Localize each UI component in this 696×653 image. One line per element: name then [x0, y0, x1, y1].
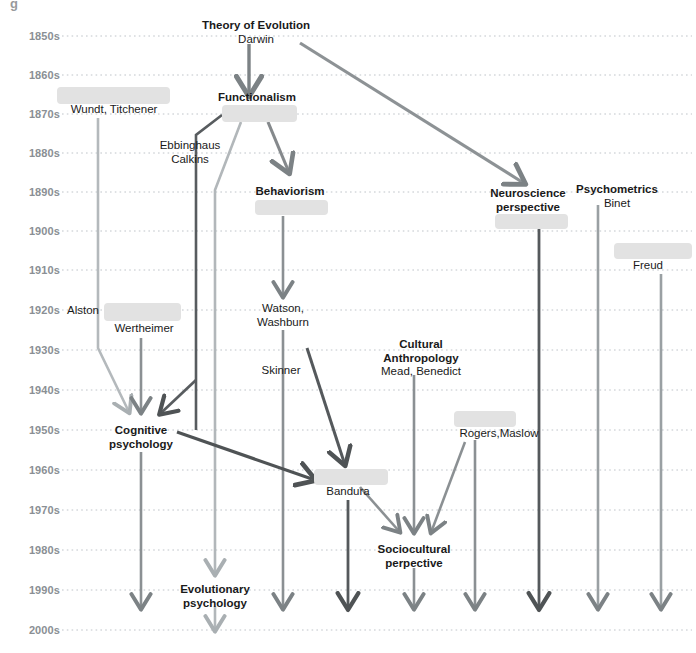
redact-functionalism — [222, 105, 297, 122]
connector-ebbinghaus-to-cognitive — [162, 380, 196, 412]
node-people-rogers-maslow: Rogers,Maslow — [459, 427, 538, 441]
node-title-cultural-anthropology: Cultural Anthropology — [381, 338, 461, 365]
node-rogers-maslow[interactable]: Rogers,Maslow — [459, 427, 538, 441]
redact-freud — [614, 243, 692, 259]
year-label-1910s: 1910s — [14, 264, 60, 276]
node-people-psychometrics: Binet — [576, 196, 658, 210]
year-label-2000s: 2000s — [14, 624, 60, 636]
redact-rogers — [454, 411, 516, 427]
connector-rogers-to-sociocultural — [432, 442, 465, 530]
node-evolutionary-psychology[interactable]: Evolutionary psychology — [180, 583, 250, 610]
connector-skinner-to-bandura — [307, 348, 344, 462]
year-label-1940s: 1940s — [14, 384, 60, 396]
node-bandura[interactable]: Bandura — [326, 485, 369, 499]
year-label-1850s: 1850s — [14, 30, 60, 42]
node-skinner[interactable]: Skinner — [262, 364, 301, 378]
node-functionalism[interactable]: Functionalism — [218, 91, 296, 105]
node-title-cognitive-psychology: Cognitive psychology — [109, 424, 173, 451]
node-people-wundt-titchener: Wundt, Titchener — [71, 103, 158, 117]
year-label-1920s: 1920s — [14, 304, 60, 316]
year-label-1980s: 1980s — [14, 544, 60, 556]
node-title-evolutionary-psychology: Evolutionary psychology — [180, 583, 250, 610]
redact-wertheimer — [104, 303, 181, 321]
node-wundt-titchener[interactable]: Wundt, Titchener — [71, 103, 158, 117]
redact-bandura — [314, 469, 388, 485]
node-theory-of-evolution[interactable]: Theory of EvolutionDarwin — [202, 19, 310, 46]
node-watson-washburn[interactable]: Watson, Washburn — [257, 302, 309, 329]
redact-neuroscience — [495, 214, 568, 229]
node-cognitive-psychology[interactable]: Cognitive psychology — [109, 424, 173, 451]
connector-wundt-to-cognitive — [98, 118, 128, 410]
connector-functionalism-to-evolutionary — [215, 122, 241, 572]
year-label-1860s: 1860s — [14, 69, 60, 81]
node-sociocultural-perspective[interactable]: Sociocultural perpective — [378, 543, 451, 570]
node-cultural-anthropology[interactable]: Cultural AnthropologyMead, Benedict — [381, 338, 461, 379]
year-label-1950s: 1950s — [14, 424, 60, 436]
node-people-alston: Alston — [67, 304, 99, 318]
timeline-diagram: g — [0, 0, 696, 653]
node-wertheimer[interactable]: Wertheimer — [114, 322, 173, 336]
node-psychometrics[interactable]: PsychometricsBinet — [576, 183, 658, 210]
redact-behaviorism — [255, 200, 328, 215]
node-ebbinghaus-calkins[interactable]: Ebbinghaus Calkins — [160, 139, 221, 166]
node-freud[interactable]: Freud — [633, 259, 663, 273]
node-title-behaviorism: Behaviorism — [255, 185, 324, 199]
node-neuroscience-perspective[interactable]: Neuroscience perspective — [490, 187, 565, 214]
connector-evolution-to-neuroscience — [300, 43, 522, 182]
node-title-psychometrics: Psychometrics — [576, 183, 658, 197]
node-behaviorism[interactable]: Behaviorism — [255, 185, 324, 199]
node-title-theory-of-evolution: Theory of Evolution — [202, 19, 310, 33]
year-label-1890s: 1890s — [14, 186, 60, 198]
year-label-1930s: 1930s — [14, 344, 60, 356]
node-people-bandura: Bandura — [326, 485, 369, 499]
node-people-ebbinghaus-calkins: Ebbinghaus Calkins — [160, 139, 221, 166]
connector-functionalism-to-behaviorism — [268, 122, 288, 170]
node-title-sociocultural-perspective: Sociocultural perpective — [378, 543, 451, 570]
connectors — [98, 43, 661, 628]
node-people-skinner: Skinner — [262, 364, 301, 378]
year-label-1970s: 1970s — [14, 504, 60, 516]
node-people-theory-of-evolution: Darwin — [202, 32, 310, 46]
connector-cognitive-to-bandura — [177, 432, 312, 479]
node-title-neuroscience-perspective: Neuroscience perspective — [490, 187, 565, 214]
node-people-wertheimer: Wertheimer — [114, 322, 173, 336]
year-label-1990s: 1990s — [14, 584, 60, 596]
year-label-1880s: 1880s — [14, 147, 60, 159]
node-people-cultural-anthropology: Mead, Benedict — [381, 365, 461, 379]
node-people-watson-washburn: Watson, Washburn — [257, 302, 309, 329]
node-people-freud: Freud — [633, 259, 663, 273]
node-alston[interactable]: Alston — [67, 304, 99, 318]
year-label-1870s: 1870s — [14, 108, 60, 120]
year-label-1900s: 1900s — [14, 225, 60, 237]
node-title-functionalism: Functionalism — [218, 91, 296, 105]
redact-wundt — [57, 87, 170, 104]
year-label-1960s: 1960s — [14, 464, 60, 476]
